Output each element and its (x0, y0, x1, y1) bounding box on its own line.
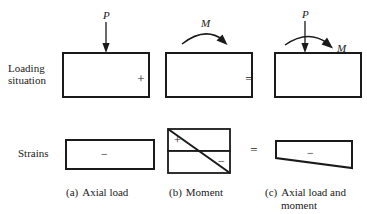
downward-axial-force-arrow-a (102, 22, 109, 53)
caption-b-text: Moment (186, 186, 223, 198)
caption-a: (a)Axial load (66, 186, 128, 199)
caption-c-tag: (c) (265, 186, 277, 198)
caption-a-text: Axial load (82, 186, 128, 198)
strain-diagram-combined-trapezoid (276, 141, 352, 168)
figure-vector-overlay (0, 0, 367, 214)
caption-c: (c)Axial load and moment (265, 186, 361, 212)
clockwise-moment-arc-arrow-b (182, 34, 228, 45)
caption-c-text-line2: moment (281, 199, 361, 212)
strain-diagram-axial-uniform (66, 140, 154, 169)
strain-sign-axial-compression: − (101, 148, 108, 160)
strain-sign-combined-compression: − (307, 147, 314, 159)
superposition-figure: Loading situation Strains + = + = P M P … (0, 0, 367, 214)
caption-a-tag: (a) (66, 186, 78, 198)
caption-b-tag: (b) (169, 186, 182, 198)
caption-c-text-line1: Axial load and (281, 186, 346, 198)
clockwise-moment-arc-arrow-c (285, 36, 333, 48)
strain-sign-moment-tension: + (174, 134, 181, 146)
caption-b: (b)Moment (169, 186, 223, 199)
strain-sign-moment-compression: − (218, 155, 225, 167)
